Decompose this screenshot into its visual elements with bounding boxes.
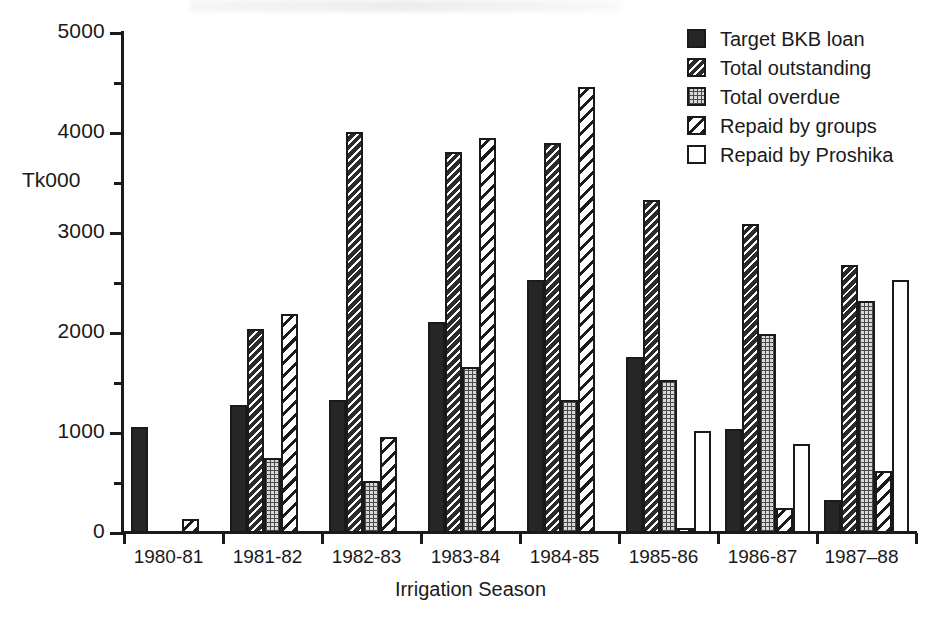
bar xyxy=(561,400,578,533)
x-axis-category-label: 1981-82 xyxy=(233,546,303,568)
x-axis-category-label: 1987–88 xyxy=(825,546,899,568)
x-tick-mark xyxy=(321,533,324,544)
scan-artifact xyxy=(190,0,620,12)
bar xyxy=(858,301,875,533)
y-tick-label: 1000 xyxy=(35,419,105,443)
legend-swatch-icon xyxy=(687,29,706,48)
bar xyxy=(428,322,445,533)
legend-item: Total outstanding xyxy=(687,53,937,82)
x-tick-mark xyxy=(816,533,819,544)
bar xyxy=(462,367,479,533)
bar xyxy=(875,471,892,533)
bar xyxy=(230,405,247,533)
bar xyxy=(892,280,909,533)
legend-label: Total overdue xyxy=(720,87,840,107)
legend-label: Repaid by Proshika xyxy=(720,145,893,165)
x-axis-category-label: 1983-84 xyxy=(431,546,501,568)
legend-swatch-icon xyxy=(687,58,706,77)
bar xyxy=(742,224,759,533)
bar xyxy=(626,357,643,533)
y-tick-mark xyxy=(110,132,121,135)
y-tick-mark xyxy=(110,532,121,535)
x-axis-category-label: 1982-83 xyxy=(332,546,402,568)
bar xyxy=(264,458,281,533)
legend-label: Repaid by groups xyxy=(720,116,877,136)
y-minor-tick-mark xyxy=(114,82,121,85)
bar xyxy=(182,519,199,534)
legend-swatch-icon xyxy=(687,145,706,164)
bar xyxy=(776,508,793,533)
y-tick-label: 3000 xyxy=(35,219,105,243)
bar xyxy=(346,132,363,533)
bar xyxy=(363,481,380,533)
bar xyxy=(380,437,397,533)
bar xyxy=(660,380,677,533)
x-tick-mark xyxy=(519,533,522,544)
bar xyxy=(544,143,561,533)
y-minor-tick-mark xyxy=(114,482,121,485)
legend-swatch-icon xyxy=(687,87,706,106)
bar xyxy=(725,429,742,533)
y-tick-label: 5000 xyxy=(35,19,105,43)
bar xyxy=(643,200,660,533)
y-tick-label: 0 xyxy=(35,519,105,543)
y-tick-mark xyxy=(110,232,121,235)
x-axis-category-label: 1985-86 xyxy=(629,546,699,568)
bar xyxy=(677,528,694,533)
x-tick-mark xyxy=(222,533,225,544)
bar xyxy=(527,280,544,533)
x-axis-category-label: 1980-81 xyxy=(134,546,204,568)
x-tick-mark xyxy=(123,533,126,544)
bar xyxy=(479,138,496,533)
bar xyxy=(694,431,711,533)
x-tick-mark xyxy=(420,533,423,544)
legend-item: Repaid by groups xyxy=(687,111,937,140)
bar xyxy=(841,265,858,533)
y-tick-mark xyxy=(110,432,121,435)
x-axis-category-label: 1984-85 xyxy=(530,546,600,568)
legend-item: Repaid by Proshika xyxy=(687,140,937,169)
y-tick-label: 4000 xyxy=(35,119,105,143)
x-tick-mark xyxy=(717,533,720,544)
legend-label: Total outstanding xyxy=(720,58,871,78)
y-minor-tick-mark xyxy=(114,282,121,285)
legend-item: Total overdue xyxy=(687,82,937,111)
bar xyxy=(759,334,776,533)
bar-chart: Tk000 010002000300040005000 1980-811981-… xyxy=(0,0,941,620)
bar xyxy=(445,152,462,533)
x-axis-category-label: 1986-87 xyxy=(728,546,798,568)
bar xyxy=(824,500,841,533)
legend-label: Target BKB loan xyxy=(720,29,865,49)
bar xyxy=(281,314,298,533)
bar xyxy=(578,87,595,533)
y-minor-tick-mark xyxy=(114,382,121,385)
bar xyxy=(247,329,264,533)
legend-item: Target BKB loan xyxy=(687,24,937,53)
bar xyxy=(329,400,346,533)
y-minor-tick-mark xyxy=(114,182,121,185)
legend-swatch-icon xyxy=(687,116,706,135)
y-tick-label: 2000 xyxy=(35,319,105,343)
y-tick-mark xyxy=(110,32,121,35)
x-tick-mark xyxy=(915,533,918,544)
bar xyxy=(793,444,810,533)
y-axis-title: Tk000 xyxy=(22,168,80,192)
bar xyxy=(131,427,148,533)
chart-legend: Target BKB loanTotal outstandingTotal ov… xyxy=(687,24,937,169)
x-tick-mark xyxy=(618,533,621,544)
x-axis-title: Irrigation Season xyxy=(0,578,941,601)
y-tick-mark xyxy=(110,332,121,335)
